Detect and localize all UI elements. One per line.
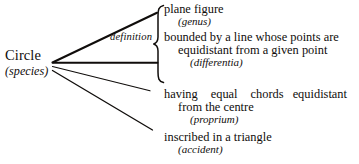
- branch-proprium-word-4: equidistant: [293, 87, 347, 101]
- branch-genus: plane figure (genus): [164, 3, 224, 28]
- branch-genus-predicable-tag: (genus): [164, 16, 224, 28]
- root-node-predicable-tag: (species): [5, 65, 81, 77]
- branch-accident: inscribed in a triangle (accident): [164, 131, 272, 156]
- root-node: Circle (species): [5, 48, 81, 77]
- connector-to-accident: [53, 71, 153, 131]
- predicables-diagram: Circle (species) definition plane figure…: [0, 0, 359, 164]
- definition-group-label: definition: [110, 31, 152, 42]
- branch-proprium-word-1: having: [164, 87, 198, 101]
- branch-differentia-predicable-tag: (differentia): [164, 57, 339, 69]
- branch-accident-predicable-tag: (accident): [164, 144, 272, 156]
- branch-differentia: bounded by a line whose points are equid…: [164, 31, 339, 69]
- branch-proprium-predicable-tag: (proprium): [164, 114, 347, 126]
- root-node-label: Circle: [5, 48, 81, 63]
- branch-proprium-word-2: equal: [211, 87, 238, 101]
- branch-proprium-word-3: chords: [251, 87, 284, 101]
- branch-proprium: havingequalchordsequidistant from the ce…: [164, 88, 347, 126]
